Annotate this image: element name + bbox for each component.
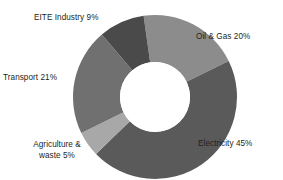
slice-label-agriculture-waste: Agriculture & waste 5% bbox=[18, 139, 96, 161]
slice-label-oil-gas: Oil & Gas 20% bbox=[196, 31, 280, 42]
slice-label-electricity: Electricity 45% bbox=[198, 138, 280, 149]
slice-label-transport: Transport 21% bbox=[3, 72, 83, 83]
donut-chart: Oil & Gas 20% Electricity 45% Agricultur… bbox=[0, 0, 283, 180]
slice-label-eite-industry: EITE Industry 9% bbox=[34, 12, 124, 23]
donut-hole bbox=[120, 62, 190, 132]
